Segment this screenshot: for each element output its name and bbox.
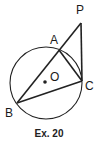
label-a: A bbox=[50, 34, 58, 46]
figure-caption: Ex. 20 bbox=[0, 128, 98, 139]
segment-ac bbox=[59, 50, 82, 81]
label-b: B bbox=[5, 107, 13, 119]
label-c: C bbox=[85, 80, 94, 92]
label-o: O bbox=[50, 71, 59, 83]
center-dot bbox=[43, 80, 47, 84]
segment-pc bbox=[81, 23, 82, 81]
label-p: P bbox=[76, 4, 84, 16]
segment-bp bbox=[17, 23, 81, 103]
geometry-figure bbox=[0, 0, 98, 141]
